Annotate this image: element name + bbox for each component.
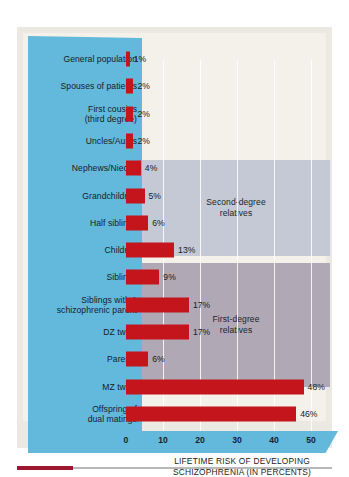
- bar-row[interactable]: Spouses of patients2%: [17, 74, 332, 98]
- bar-row[interactable]: Grandchildren5%: [17, 184, 332, 208]
- bar-row[interactable]: Offspring ofdual matings46%: [17, 402, 332, 426]
- bar-rows: General population1%Spouses of patients2…: [17, 27, 332, 431]
- x-axis-tick: 40: [269, 435, 279, 445]
- bar: [126, 106, 133, 121]
- figure-page: Second-degree relatives First-degree rel…: [0, 0, 349, 477]
- category-label: Siblings with 1schizophrenic parent: [33, 294, 137, 315]
- x-axis-tick: 10: [158, 435, 168, 445]
- category-label: First cousins(third degree): [33, 103, 137, 124]
- bar-value-label: 6%: [152, 354, 165, 364]
- bar-row[interactable]: Half siblings6%: [17, 211, 332, 235]
- bar-value-label: 5%: [149, 191, 162, 201]
- bar: [126, 406, 296, 421]
- footer-rule-accent: [17, 466, 73, 470]
- footer-rule: [73, 467, 332, 469]
- bar-row[interactable]: MZ twins48%: [17, 375, 332, 399]
- bar-value-label: 2%: [137, 81, 150, 91]
- bar-value-label: 2%: [137, 136, 150, 146]
- bar-row[interactable]: Parents6%: [17, 347, 332, 371]
- bar-row[interactable]: General population1%: [17, 47, 332, 71]
- category-label: Offspring ofdual matings: [33, 403, 137, 424]
- x-axis-tick: 30: [232, 435, 242, 445]
- bar: [126, 297, 189, 312]
- category-label: DZ twins: [33, 327, 137, 338]
- bar-value-label: 46%: [300, 409, 317, 419]
- bar: [126, 133, 133, 148]
- bar: [126, 243, 174, 258]
- category-label: Grandchildren: [33, 190, 137, 201]
- category-label: MZ twins: [33, 381, 137, 392]
- bar-value-label: 17%: [193, 300, 210, 310]
- x-axis-tick: 20: [195, 435, 205, 445]
- bar: [126, 325, 189, 340]
- chart-card: Second-degree relatives First-degree rel…: [17, 27, 332, 448]
- category-label: General population: [33, 54, 137, 65]
- bar-value-label: 2%: [137, 109, 150, 119]
- category-label: Siblings: [33, 272, 137, 283]
- bar-row[interactable]: DZ twins17%: [17, 320, 332, 344]
- bar-row[interactable]: Siblings9%: [17, 265, 332, 289]
- axis-strip: [28, 431, 338, 453]
- bar-row[interactable]: Uncles/Aunts2%: [17, 129, 332, 153]
- bar: [126, 79, 133, 94]
- bar: [126, 52, 130, 67]
- bar: [126, 352, 148, 367]
- category-label: Spouses of patients: [33, 81, 137, 92]
- category-label: Nephews/Nieces: [33, 163, 137, 174]
- bar: [126, 188, 145, 203]
- x-axis-caption-line1: LIFETIME RISK OF DEVELOPING: [174, 456, 310, 466]
- category-label-line2: schizophrenic parent: [57, 305, 137, 315]
- bar-row[interactable]: First cousins(third degree)2%: [17, 102, 332, 126]
- bar-value-label: 48%: [308, 382, 325, 392]
- category-label: Uncles/Aunts: [33, 136, 137, 147]
- bar-value-label: 17%: [193, 327, 210, 337]
- x-axis-tick: 0: [124, 435, 129, 445]
- bar: [126, 379, 304, 394]
- bar-row[interactable]: Children13%: [17, 238, 332, 262]
- bar: [126, 161, 141, 176]
- bar: [126, 270, 159, 285]
- category-label: Parents: [33, 354, 137, 365]
- bar-value-label: 13%: [178, 245, 195, 255]
- bar-row[interactable]: Nephews/Nieces4%: [17, 156, 332, 180]
- bar-row[interactable]: Siblings with 1schizophrenic parent17%: [17, 293, 332, 317]
- bar: [126, 215, 148, 230]
- bar-value-label: 6%: [152, 218, 165, 228]
- category-label: Half siblings: [33, 218, 137, 229]
- bar-value-label: 4%: [145, 163, 158, 173]
- bar-value-label: 1%: [134, 54, 147, 64]
- bar-value-label: 9%: [163, 272, 176, 282]
- x-axis-tick: 50: [306, 435, 316, 445]
- category-label: Children: [33, 245, 137, 256]
